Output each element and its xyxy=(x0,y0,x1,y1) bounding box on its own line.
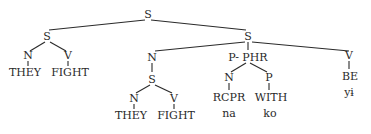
word-they-inner: THEY xyxy=(115,109,148,122)
node-pphr-n: N xyxy=(224,71,234,84)
edge-sright-v xyxy=(252,42,349,51)
node-np-s-v: V xyxy=(169,92,179,105)
node-pphr: P- PHR xyxy=(228,51,268,64)
word-fight-inner: FIGHT xyxy=(157,109,195,122)
node-pphr-p: P xyxy=(265,71,273,84)
node-root-s: S xyxy=(144,8,152,21)
node-s-left-n: N xyxy=(23,49,33,62)
node-np-s: S xyxy=(148,73,156,86)
node-s-right: S xyxy=(244,30,252,43)
word-fight-left: FIGHT xyxy=(51,66,89,79)
gloss-na: na xyxy=(222,107,236,120)
node-s-left-v: V xyxy=(63,49,73,62)
tree-labels: S S N V THEY FIGHT S N S N V THEY FIGHT … xyxy=(9,8,358,122)
gloss-yi: yɨ xyxy=(343,86,354,99)
word-they-left: THEY xyxy=(9,66,42,79)
word-rcpr: RCPR xyxy=(213,91,246,104)
tree-edges xyxy=(28,20,349,109)
node-np: N xyxy=(147,51,157,64)
word-be: BE xyxy=(342,70,358,83)
gloss-ko: ko xyxy=(263,107,277,120)
syntax-tree-diagram: S S N V THEY FIGHT S N S N V THEY FIGHT … xyxy=(0,0,371,134)
edge-sright-np xyxy=(155,42,245,51)
node-v: V xyxy=(344,49,354,62)
edge-root-sleft xyxy=(49,20,145,30)
node-s-left: S xyxy=(43,30,51,43)
node-np-s-n: N xyxy=(129,92,139,105)
word-with: WITH xyxy=(255,91,288,104)
edge-root-sright xyxy=(151,20,246,30)
